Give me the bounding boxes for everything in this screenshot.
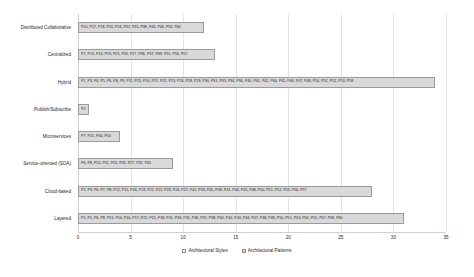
bar-row: P2	[78, 96, 446, 123]
chart-container: Distributed CollaborativeCentralizedHybr…	[0, 0, 474, 277]
bar-data-label: P7, P21, P40, P56	[79, 135, 111, 139]
y-axis-tick-label: Publish/Subscribe	[34, 96, 71, 123]
bar-row: P2, P3, P4, P5, P6, P8, P9, P11, P15, P1…	[78, 69, 446, 96]
y-axis-category-labels: Distributed CollaborativeCentralizedHybr…	[0, 14, 74, 232]
bar-data-label: P1, P5, P6, P9, P13, P14, P16, P17, P22,…	[79, 216, 343, 220]
bar-row: P7, P13, P14, P19, P25, P26, P27, P36, P…	[78, 41, 446, 68]
bar-row: P2, P3, P6, P7, P8, P12, P15, P16, P19, …	[78, 178, 446, 205]
chart-legend: Architectural Styles Architectural Patte…	[0, 248, 474, 253]
x-axis-tick-label: 10	[181, 235, 186, 240]
x-axis-tick-label: 35	[443, 235, 448, 240]
y-axis-tick-label: Distributed Collaborative	[21, 14, 71, 41]
x-axis-tick-label: 0	[77, 235, 80, 240]
y-axis-tick-label: Service-oriented (SOA)	[23, 150, 71, 177]
legend-entry-styles: Architectural Styles	[182, 248, 227, 253]
legend-entry-patterns: Architectural Patterns	[242, 248, 292, 253]
x-axis: 05101520253035	[78, 232, 446, 248]
bar[interactable]: P2, P3, P6, P7, P8, P12, P15, P16, P19, …	[78, 186, 372, 197]
bar[interactable]: P7, P21, P40, P56	[78, 131, 120, 142]
bar-row: P6, P8, P10, P11, P13, P26, P27, P32, P4…	[78, 150, 446, 177]
bar-data-label: P10, P17, P18, P20, P24, P32, P35, P38, …	[79, 26, 181, 30]
bar[interactable]: P7, P13, P14, P19, P25, P26, P27, P36, P…	[78, 49, 215, 60]
bar-row: P10, P17, P18, P20, P24, P32, P35, P38, …	[78, 14, 446, 41]
bar[interactable]: P6, P8, P10, P11, P13, P26, P27, P32, P4…	[78, 158, 173, 169]
y-axis-tick-label: Microservices	[43, 123, 71, 150]
bar[interactable]: P1, P5, P6, P9, P13, P14, P16, P17, P22,…	[78, 213, 404, 224]
bar[interactable]: P10, P17, P18, P20, P24, P32, P35, P38, …	[78, 22, 204, 33]
x-axis-tick-label: 20	[286, 235, 291, 240]
bar-data-label: P2, P3, P4, P5, P6, P8, P9, P11, P15, P1…	[79, 80, 353, 84]
bar-data-label: P2, P3, P6, P7, P8, P12, P15, P16, P19, …	[79, 189, 307, 193]
y-axis-tick-label: Layered	[54, 205, 71, 232]
x-axis-tick-label: 5	[129, 235, 132, 240]
bar-rows: P10, P17, P18, P20, P24, P32, P35, P38, …	[78, 14, 446, 232]
legend-label-patterns: Architectural Patterns	[248, 248, 292, 253]
y-axis-tick-label: Hybrid	[58, 69, 71, 96]
plot-area: P10, P17, P18, P20, P24, P32, P35, P38, …	[78, 14, 446, 232]
legend-label-styles: Architectural Styles	[188, 248, 227, 253]
bar-data-label: P7, P13, P14, P19, P25, P26, P27, P36, P…	[79, 53, 187, 57]
bar-data-label: P2	[79, 107, 85, 111]
x-axis-tick-label: 15	[233, 235, 238, 240]
legend-swatch-icon-patterns	[242, 249, 246, 253]
y-axis-tick-label: Centralized	[48, 41, 71, 68]
x-axis-tick-label: 30	[391, 235, 396, 240]
bar[interactable]: P2	[78, 104, 89, 115]
legend-swatch-icon-styles	[182, 249, 186, 253]
x-axis-line	[78, 232, 446, 233]
bar-row: P7, P21, P40, P56	[78, 123, 446, 150]
bar-row: P1, P5, P6, P9, P13, P14, P16, P17, P22,…	[78, 205, 446, 232]
gridline	[446, 14, 447, 232]
y-axis-tick-label: Cloud-based	[45, 178, 71, 205]
bar-data-label: P6, P8, P10, P11, P13, P26, P27, P32, P4…	[79, 162, 151, 166]
x-axis-tick-label: 25	[338, 235, 343, 240]
bar[interactable]: P2, P3, P4, P5, P6, P8, P9, P11, P15, P1…	[78, 77, 435, 88]
